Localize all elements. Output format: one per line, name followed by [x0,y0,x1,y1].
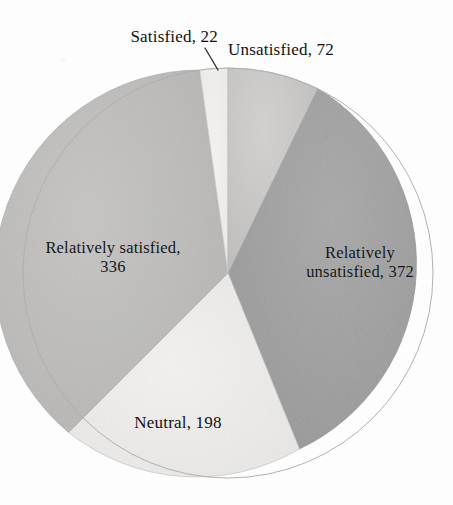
leader-line-satisfied [205,48,218,70]
pie-label-neutral: Neutral, 198 [103,413,253,433]
pie-label-unsatisfied: Unsatisfied, 72 [228,40,418,60]
pie-label-relatively-satisfied: Relatively satisfied, 336 [24,238,202,277]
pie-label-satisfied: Satisfied, 22 [58,27,218,47]
pie-label-relatively-unsatisfied: Relatively unsatisfied, 372 [285,243,435,282]
pie-chart-figure: Satisfied, 22 Unsatisfied, 72 Relatively… [0,0,453,505]
